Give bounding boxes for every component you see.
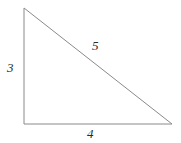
base-label: 4: [87, 127, 94, 140]
hypotenuse-label: 5: [92, 39, 99, 52]
triangle-figure: 3 5 4: [0, 0, 181, 143]
vertical-leg-label: 3: [7, 61, 14, 74]
hypotenuse-line: [24, 8, 172, 124]
triangle-drawing: [0, 0, 181, 143]
